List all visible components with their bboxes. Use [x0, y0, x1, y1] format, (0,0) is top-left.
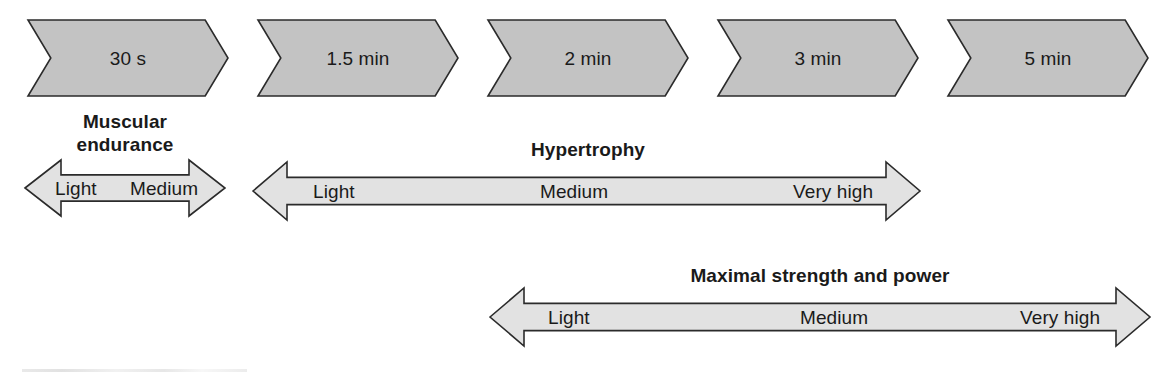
band-title: Maximal strength and power: [690, 266, 949, 285]
chevron-label: 30 s: [51, 49, 205, 68]
chevron-label: 1.5 min: [281, 49, 435, 68]
diagram-text: 30 s1.5 min2 min3 min5 minMuscularendura…: [0, 0, 1165, 378]
band-title: Hypertrophy: [531, 140, 645, 159]
band-title: endurance: [77, 135, 174, 154]
intensity-label: Very high: [793, 182, 873, 201]
intensity-label: Very high: [1020, 308, 1100, 327]
chevron-label: 2 min: [511, 49, 665, 68]
intensity-label: Light: [548, 308, 590, 327]
intensity-label: Light: [55, 179, 97, 198]
intensity-label: Medium: [800, 308, 868, 327]
chevron-label: 5 min: [971, 49, 1125, 68]
band-title: Muscular: [83, 112, 167, 131]
chevron-label: 3 min: [741, 49, 895, 68]
intensity-label: Light: [313, 182, 355, 201]
diagram-canvas: 30 s1.5 min2 min3 min5 minMuscularendura…: [0, 0, 1165, 378]
page-edge-artifact: [22, 369, 247, 372]
intensity-label: Medium: [130, 179, 198, 198]
intensity-label: Medium: [540, 182, 608, 201]
